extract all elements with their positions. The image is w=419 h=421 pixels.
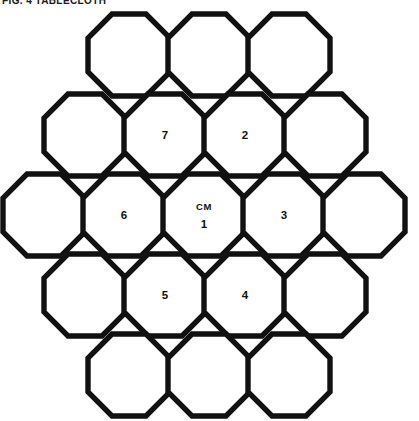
octagon-tile — [3, 174, 85, 256]
octagon-shape — [124, 254, 206, 336]
octagon-outline — [204, 94, 286, 176]
octagon-shape — [248, 334, 330, 416]
octagon-outline — [124, 254, 206, 336]
octagon-outline — [243, 174, 325, 256]
octagon-tile — [248, 14, 330, 96]
octagon-tile: 5 — [124, 254, 206, 336]
octagon-tile: 6 — [83, 174, 165, 256]
octagon-shape — [83, 174, 165, 256]
octagon-shape — [44, 94, 126, 176]
octagon-tile — [284, 94, 366, 176]
octagon-shape — [3, 174, 85, 256]
figure-page: FIG. 4 TABLECLOTH 726CM1354 — [0, 0, 419, 421]
octagon-shape — [248, 14, 330, 96]
octagon-tile: 2 — [204, 94, 286, 176]
octagon-shape — [44, 254, 126, 336]
octagon-shape — [124, 94, 206, 176]
octagon-outline — [168, 14, 250, 96]
octagon-outline — [248, 14, 330, 96]
octagon-shape — [88, 14, 170, 96]
octagon-tile: CM1 — [163, 174, 245, 256]
octagon-shape — [243, 174, 325, 256]
octagon-tile — [323, 174, 405, 256]
octagon-tile — [284, 254, 366, 336]
octagon-outline — [88, 14, 170, 96]
octagon-outline — [3, 174, 85, 256]
octagon-outline — [323, 174, 405, 256]
octagon-outline — [44, 94, 126, 176]
octagon-outline — [204, 254, 286, 336]
octagon-tile — [44, 254, 126, 336]
octagon-tile: 3 — [243, 174, 325, 256]
octagon-shape — [168, 334, 250, 416]
octagon-tile: 4 — [204, 254, 286, 336]
octagon-outline — [163, 174, 245, 256]
octagon-tile — [88, 14, 170, 96]
octagon-tile — [88, 334, 170, 416]
octagon-tile: 7 — [124, 94, 206, 176]
octagon-outline — [83, 174, 165, 256]
octagon-tiling-diagram: 726CM1354 — [0, 0, 419, 421]
octagon-outline — [88, 334, 170, 416]
octagon-tile — [168, 334, 250, 416]
octagon-outline — [284, 254, 366, 336]
octagon-shape — [284, 94, 366, 176]
octagon-outline — [284, 94, 366, 176]
octagon-outline — [44, 254, 126, 336]
octagon-tile — [44, 94, 126, 176]
octagon-shape — [204, 94, 286, 176]
octagon-shape — [204, 254, 286, 336]
octagon-shape — [323, 174, 405, 256]
octagon-tile — [248, 334, 330, 416]
octagon-outline — [168, 334, 250, 416]
octagon-shape — [168, 14, 250, 96]
octagon-outline — [248, 334, 330, 416]
octagon-shape — [163, 174, 245, 256]
octagon-tile — [168, 14, 250, 96]
octagon-outline — [124, 94, 206, 176]
octagon-shape — [88, 334, 170, 416]
octagon-shape — [284, 254, 366, 336]
